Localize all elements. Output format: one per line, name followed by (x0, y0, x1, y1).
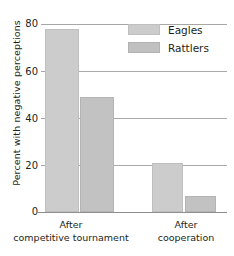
category-0-line-2: competitive tournament (0, 231, 142, 244)
legend-label-eagles: Eagles (168, 24, 203, 36)
bar-eagles-after-cooperation (152, 163, 183, 212)
bar-rattlers-after-competitive-tournament (80, 97, 114, 212)
bar-eagles-after-competitive-tournament (45, 29, 79, 212)
y-tick-60: 60 (14, 67, 38, 77)
legend-swatch-eagles-icon (128, 24, 160, 35)
category-label-after-cooperation: After cooperation (138, 218, 234, 244)
legend-item-eagles: Eagles (128, 22, 232, 37)
y-tick-40: 40 (14, 114, 38, 124)
bar-rattlers-after-cooperation (185, 196, 216, 212)
y-tick-80: 80 (14, 19, 38, 29)
bar-chart: Percent with negative perceptions 80 60 … (0, 0, 234, 256)
x-axis-category-labels: After competitive tournament After coope… (0, 218, 234, 256)
legend-swatch-rattlers-icon (128, 42, 160, 53)
category-1-line-1: After (138, 218, 234, 231)
y-tick-20: 20 (14, 161, 38, 171)
legend-item-rattlers: Rattlers (128, 40, 232, 55)
legend-label-rattlers: Rattlers (168, 42, 209, 54)
y-tick-0: 0 (14, 207, 38, 217)
category-1-line-2: cooperation (138, 231, 234, 244)
x-axis-line (36, 212, 227, 213)
legend: Eagles Rattlers (128, 22, 232, 58)
category-label-after-competitive-tournament: After competitive tournament (0, 218, 142, 244)
category-0-line-1: After (0, 218, 142, 231)
